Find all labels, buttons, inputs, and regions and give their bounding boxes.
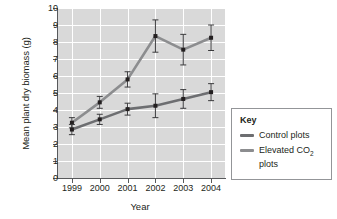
data-point-marker xyxy=(153,34,157,38)
data-point-marker xyxy=(126,77,130,81)
series-line xyxy=(72,36,211,123)
y-tick-label: 9 xyxy=(40,21,58,30)
series-line xyxy=(72,92,211,129)
y-tick-label: 2 xyxy=(40,140,58,149)
y-tick-label: 8 xyxy=(40,38,58,47)
x-tick-label: 2004 xyxy=(194,184,228,193)
y-tick-label: 0 xyxy=(40,174,58,183)
y-tick-label: 6 xyxy=(40,72,58,81)
chart-figure: Mean plant dry biomass (g) Year 10987654… xyxy=(0,0,337,219)
data-point-marker xyxy=(98,117,102,121)
y-tick-label: 5 xyxy=(40,89,58,98)
x-axis-line xyxy=(57,178,226,179)
data-point-marker xyxy=(209,36,213,40)
legend-entry: Elevated CO2 plots xyxy=(240,145,324,170)
data-point-marker xyxy=(70,128,74,132)
data-series-layer xyxy=(58,8,225,178)
legend-entry: Control plots xyxy=(240,130,324,141)
series-elevated xyxy=(69,20,214,128)
y-tick-label: 7 xyxy=(40,55,58,64)
x-axis-title: Year xyxy=(55,201,225,212)
legend-label: Elevated CO2 plots xyxy=(259,145,324,170)
legend-box: Key Control plotsElevated CO2 plots xyxy=(231,108,332,180)
legend-entries: Control plotsElevated CO2 plots xyxy=(240,130,324,170)
y-tick-label: 10 xyxy=(40,4,58,13)
data-point-marker xyxy=(181,97,185,101)
legend-swatch-icon xyxy=(240,149,254,152)
data-point-marker xyxy=(153,104,157,108)
data-point-marker xyxy=(181,48,185,52)
legend-label: Control plots xyxy=(259,130,310,141)
data-point-marker xyxy=(209,90,213,94)
y-axis-title: Mean plant dry biomass (g) xyxy=(20,14,31,174)
y-tick-label: 3 xyxy=(40,123,58,132)
legend-swatch-icon xyxy=(240,134,254,137)
data-point-marker xyxy=(126,107,130,111)
y-tick-label: 4 xyxy=(40,106,58,115)
legend-title: Key xyxy=(240,115,324,125)
y-tick-label: 1 xyxy=(40,157,58,166)
legend-label-subscript: 2 xyxy=(310,150,314,157)
data-point-marker xyxy=(98,100,102,104)
